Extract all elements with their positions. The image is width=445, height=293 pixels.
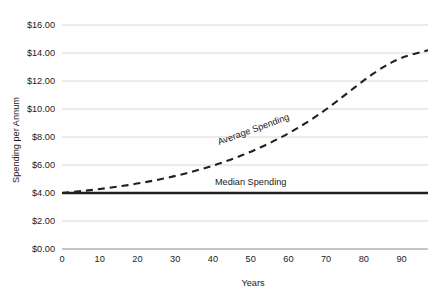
series-label-median-spending: Median Spending xyxy=(215,177,287,187)
y-tick-label: $14.00 xyxy=(27,48,55,58)
x-axis-title: Years xyxy=(241,278,265,288)
y-tick-label: $4.00 xyxy=(32,188,55,198)
x-tick-label: 20 xyxy=(132,254,142,264)
x-tick-label: 90 xyxy=(396,254,406,264)
x-axis-tick-labels: 0102030405060708090 xyxy=(59,254,406,264)
y-axis-title: Spending per Annum xyxy=(11,97,21,183)
y-tick-label: $6.00 xyxy=(32,160,55,170)
x-tick-label: 0 xyxy=(59,254,64,264)
x-tick-label: 70 xyxy=(321,254,331,264)
spending-line-chart: $0.00$2.00$4.00$6.00$8.00$10.00$12.00$14… xyxy=(0,0,445,293)
series-annotations: Average SpendingMedian Spending xyxy=(215,112,291,188)
x-tick-label: 50 xyxy=(246,254,256,264)
data-series xyxy=(62,50,428,193)
x-tick-label: 80 xyxy=(359,254,369,264)
y-tick-label: $0.00 xyxy=(32,244,55,254)
series-label-average-spending: Average Spending xyxy=(216,112,290,147)
x-tick-label: 10 xyxy=(95,254,105,264)
y-tick-label: $8.00 xyxy=(32,132,55,142)
x-tick-label: 40 xyxy=(208,254,218,264)
y-tick-label: $2.00 xyxy=(32,216,55,226)
series-line-average-spending xyxy=(62,50,428,193)
y-tick-label: $12.00 xyxy=(27,76,55,86)
y-tick-label: $10.00 xyxy=(27,104,55,114)
chart-container: $0.00$2.00$4.00$6.00$8.00$10.00$12.00$14… xyxy=(0,0,445,293)
x-tick-label: 30 xyxy=(170,254,180,264)
y-axis-tick-labels: $0.00$2.00$4.00$6.00$8.00$10.00$12.00$14… xyxy=(27,20,55,254)
y-tick-label: $16.00 xyxy=(27,20,55,30)
x-tick-label: 60 xyxy=(283,254,293,264)
